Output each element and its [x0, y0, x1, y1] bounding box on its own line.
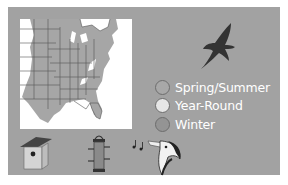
year-round-swatch-icon — [155, 98, 170, 113]
legend-label: Winter — [175, 117, 215, 132]
us-range-map-graphic — [20, 19, 132, 129]
legend-label: Spring/Summer — [175, 80, 270, 95]
legend-item-year-round: Year-Round — [155, 97, 270, 116]
legend-item-winter: Winter — [155, 115, 270, 134]
spring-summer-swatch-icon — [155, 80, 170, 95]
legend-item-spring-summer: Spring/Summer — [155, 78, 270, 97]
singing-bird-head-icon — [128, 135, 190, 177]
legend: Spring/Summer Year-Round Winter — [155, 78, 270, 134]
range-map-panel: Spring/Summer Year-Round Winter — [8, 7, 280, 175]
range-map — [20, 19, 132, 129]
legend-label: Year-Round — [175, 98, 243, 113]
tube-feeder-icon — [84, 133, 114, 173]
winter-swatch-icon — [155, 117, 170, 132]
birdhouse-icon — [18, 135, 54, 171]
flying-bird-silhouette-icon — [191, 19, 241, 71]
